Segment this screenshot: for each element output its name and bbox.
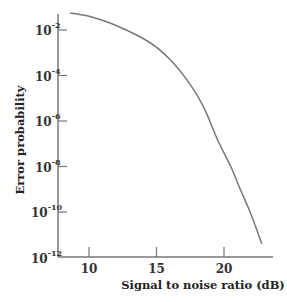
x-tick-label: 20 <box>216 262 233 276</box>
y-tick-label: 10-6 <box>35 111 61 129</box>
y-ticks: 10-210-410-610-810-1010-12 <box>31 20 67 266</box>
x-tick-label: 15 <box>148 262 165 276</box>
y-tick-label: 10-2 <box>35 20 61 38</box>
y-tick-label: 10-12 <box>31 248 62 266</box>
y-axis-title: Error probability <box>13 85 27 194</box>
y-tick-label: 10-8 <box>35 157 61 175</box>
y-tick-label: 10-4 <box>35 66 61 84</box>
x-tick-label: 10 <box>81 262 98 276</box>
error-probability-chart: 10-210-410-610-810-1010-12 101520 Error … <box>0 0 287 302</box>
x-axis-title: Signal to noise ratio (dB) <box>121 278 285 292</box>
x-ticks: 101520 <box>81 247 233 276</box>
error-probability-curve <box>70 13 262 244</box>
